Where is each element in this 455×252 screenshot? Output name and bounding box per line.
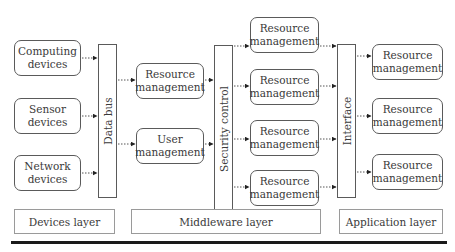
bottom-rule xyxy=(11,241,447,244)
middleware-layer-label: Middleware layer xyxy=(131,209,321,234)
layer-text: Middleware layer xyxy=(179,216,273,228)
layer-text: Application layer xyxy=(346,216,437,228)
devices-layer-label: Devices layer xyxy=(14,209,115,234)
application-layer-label: Application layer xyxy=(339,209,443,234)
layer-text: Devices layer xyxy=(29,216,101,228)
